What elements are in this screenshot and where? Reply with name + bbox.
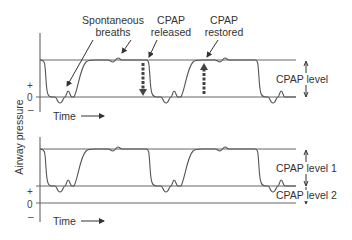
bottom-tick-zero: 0	[27, 199, 33, 210]
bottom-time-label: Time	[53, 215, 76, 227]
cpap-level-label: CPAP level	[276, 73, 328, 85]
spontaneous-pointer-2	[122, 40, 131, 53]
cpap-level1-label: CPAP level 1	[276, 162, 337, 174]
bottom-tick-plus: +	[27, 186, 33, 197]
spontaneous-pointer-1	[67, 40, 93, 86]
cpap-diagram: Airway pressure + 0 – Spontaneous breath…	[0, 0, 352, 240]
bottom-tick-minus: –	[28, 211, 34, 222]
restored-pointer	[207, 40, 218, 57]
top-tick-plus: +	[27, 80, 33, 91]
bottom-panel: + 0 – CPAP level 1 CPAP level 2 Time	[27, 137, 337, 227]
restored-label-line2: restored	[205, 26, 244, 38]
released-label-line1: CPAP	[157, 14, 185, 26]
top-panel: + 0 – Spontaneous breaths CPAP released …	[27, 14, 328, 122]
bottom-waveform	[40, 147, 296, 192]
cpap-released-arrowhead	[139, 89, 147, 96]
top-waveform	[40, 58, 296, 103]
spontaneous-label-line2: breaths	[95, 26, 130, 38]
y-axis-label: Airway pressure	[13, 99, 25, 174]
restored-label-line1: CPAP	[210, 14, 238, 26]
spontaneous-label-line1: Spontaneous	[82, 14, 144, 26]
cpap-restored-arrowhead	[200, 63, 208, 70]
top-tick-zero: 0	[27, 92, 33, 103]
cpap-level2-label: CPAP level 2	[276, 189, 337, 201]
top-tick-minus: –	[28, 104, 34, 115]
top-time-label: Time	[53, 110, 76, 122]
released-pointer	[149, 40, 157, 57]
released-label-line2: released	[151, 26, 191, 38]
